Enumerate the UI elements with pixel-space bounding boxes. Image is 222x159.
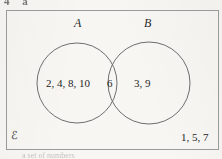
figure-caption-text: a set of numbers: [22, 152, 172, 159]
universal-set-symbol: ℰ: [11, 130, 18, 142]
figure-caption: a set of numbers: [22, 152, 172, 159]
venn-diagram-figure: 4 a A B 2, 4, 8, 10 6 3, 9 1, 5, 7 ℰ a s…: [0, 0, 222, 159]
region-b-only-elements: 3, 9: [134, 77, 151, 89]
set-label-a: A: [74, 17, 81, 29]
region-a-only-elements: 2, 4, 8, 10: [46, 77, 90, 89]
set-label-b: B: [144, 17, 151, 29]
region-outside-elements: 1, 5, 7: [181, 131, 209, 143]
region-intersection-elements: 6: [107, 77, 113, 89]
